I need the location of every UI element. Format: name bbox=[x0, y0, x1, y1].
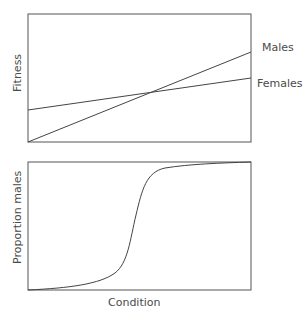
condition-axis-label: Condition bbox=[108, 296, 161, 309]
figure: Males Females Fitness Proportion males C… bbox=[0, 0, 306, 324]
females-line bbox=[28, 78, 251, 110]
proportion-males-curve bbox=[28, 162, 251, 290]
females-label: Females bbox=[257, 77, 303, 90]
fitness-axis-label: Fitness bbox=[11, 54, 24, 92]
bottom-panel-frame bbox=[28, 162, 251, 290]
males-label: Males bbox=[262, 41, 294, 54]
top-panel-frame bbox=[28, 14, 251, 142]
males-line bbox=[28, 52, 251, 142]
proportion-males-axis-label: Proportion males bbox=[11, 170, 24, 264]
